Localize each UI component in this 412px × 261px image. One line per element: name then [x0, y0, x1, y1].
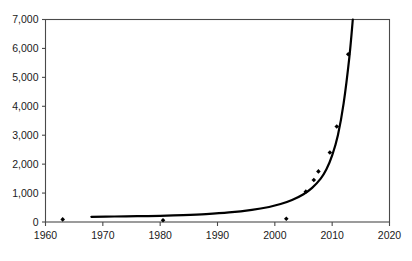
x-tick-label: 2020 — [378, 229, 402, 241]
data-point-marker — [312, 178, 317, 183]
axis-tick-marks — [42, 20, 390, 227]
x-tick-label: 2010 — [320, 229, 344, 241]
scatter-data-points — [60, 52, 350, 223]
x-axis-tick-labels: 1960197019801990200020102020 — [34, 229, 402, 241]
x-tick-label: 1960 — [34, 229, 58, 241]
x-tick-label: 1980 — [148, 229, 172, 241]
data-point-marker — [60, 217, 65, 222]
data-point-marker — [316, 169, 321, 174]
plot-frame — [46, 20, 390, 223]
y-axis-tick-labels: 01,0002,0003,0004,0005,0006,0007,000 — [12, 13, 38, 228]
exponential-fit-curve — [91, 20, 352, 217]
y-tick-label: 3,000 — [12, 129, 38, 141]
y-tick-label: 2,000 — [12, 158, 38, 170]
x-tick-label: 1990 — [206, 229, 230, 241]
y-tick-label: 4,000 — [12, 100, 38, 112]
x-tick-label: 1970 — [91, 229, 115, 241]
y-tick-label: 0 — [33, 216, 39, 228]
y-tick-label: 1,000 — [12, 187, 38, 199]
y-tick-label: 6,000 — [12, 42, 38, 54]
chart-container: 01,0002,0003,0004,0005,0006,0007,000 196… — [0, 0, 412, 261]
y-tick-label: 5,000 — [12, 71, 38, 83]
chart-plot: 01,0002,0003,0004,0005,0006,0007,000 196… — [0, 0, 412, 261]
x-tick-label: 2000 — [263, 229, 287, 241]
y-tick-label: 7,000 — [12, 13, 38, 25]
data-point-marker — [284, 217, 289, 222]
